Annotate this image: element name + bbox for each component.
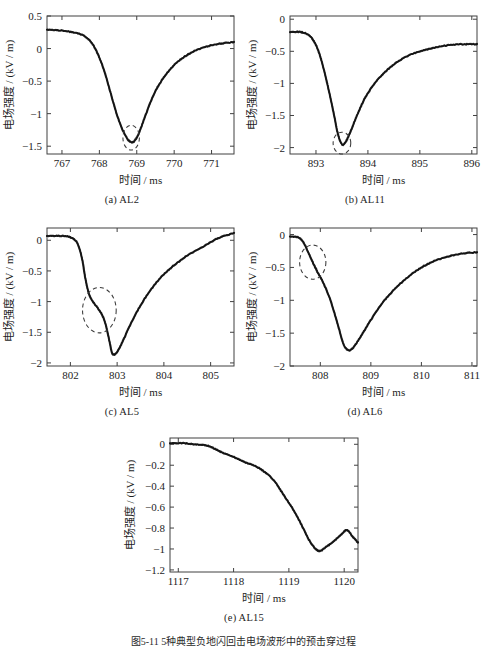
svg-text:767: 767	[54, 157, 71, 169]
svg-text:时间 / ms: 时间 / ms	[362, 174, 405, 186]
svg-text:−1.2: −1.2	[145, 564, 165, 576]
svg-text:0: 0	[280, 13, 286, 25]
svg-text:769: 769	[129, 157, 146, 169]
plot-al11: 8938948958960−0.5−1−1.5−2时间 / ms电场强度 / (…	[243, 6, 487, 196]
svg-text:−2: −2	[273, 360, 285, 372]
svg-text:0: 0	[160, 438, 166, 450]
panel-al5: 8028038048050−0.5−1−1.5−2时间 / ms电场强度 / (…	[0, 218, 244, 426]
svg-text:802: 802	[62, 369, 79, 381]
panel-al6: 8088098108110−0.5−1−1.5−2时间 / ms电场强度 / (…	[243, 218, 487, 426]
svg-text:时间 / ms: 时间 / ms	[362, 386, 405, 398]
svg-text:811: 811	[464, 369, 480, 381]
svg-text:810: 810	[413, 369, 430, 381]
plot-al15: 11171118111911200−0.2−0.4−0.6−0.8−1−1.2时…	[118, 428, 370, 614]
svg-text:−1.5: −1.5	[265, 327, 285, 339]
svg-text:电场强度 / (kV / m): 电场强度 / (kV / m)	[245, 252, 259, 343]
svg-text:804: 804	[156, 369, 173, 381]
panel-al2: 7677687697707710.50−0.5−1−1.5时间 / ms电场强度…	[0, 6, 244, 214]
chart-svg-al11: 8938948958960−0.5−1−1.5−2时间 / ms电场强度 / (…	[243, 6, 487, 196]
svg-text:1118: 1118	[223, 575, 245, 587]
panel-caption-al5: (c) AL5	[0, 406, 244, 417]
svg-text:805: 805	[202, 369, 219, 381]
svg-text:−1.5: −1.5	[22, 140, 42, 152]
panel-al15: 11171118111911200−0.2−0.4−0.6−0.8−1−1.2时…	[118, 428, 370, 628]
svg-text:−0.5: −0.5	[265, 261, 285, 273]
svg-text:−1.5: −1.5	[265, 109, 285, 121]
svg-text:−0.5: −0.5	[22, 75, 42, 87]
svg-text:896: 896	[464, 157, 481, 169]
svg-text:768: 768	[91, 157, 108, 169]
svg-text:电场强度 / (kV / m): 电场强度 / (kV / m)	[2, 252, 16, 343]
svg-text:−0.2: −0.2	[145, 459, 165, 471]
svg-text:电场强度 / (kV / m): 电场强度 / (kV / m)	[2, 40, 16, 131]
chart-svg-al15: 11171118111911200−0.2−0.4−0.6−0.8−1−1.2时…	[118, 428, 370, 614]
svg-text:894: 894	[360, 157, 377, 169]
svg-text:−2: −2	[30, 357, 42, 369]
svg-text:0: 0	[37, 43, 43, 55]
svg-text:−1.5: −1.5	[22, 326, 42, 338]
svg-text:893: 893	[308, 157, 325, 169]
svg-text:1120: 1120	[333, 575, 355, 587]
svg-text:1119: 1119	[278, 575, 300, 587]
panel-al11: 8938948958960−0.5−1−1.5−2时间 / ms电场强度 / (…	[243, 6, 487, 214]
svg-text:1117: 1117	[168, 575, 190, 587]
svg-text:770: 770	[166, 157, 183, 169]
chart-svg-al2: 7677687697707710.50−0.5−1−1.5时间 / ms电场强度…	[0, 6, 244, 196]
svg-text:0.5: 0.5	[28, 10, 42, 22]
svg-text:时间 / ms: 时间 / ms	[119, 174, 162, 186]
svg-text:771: 771	[203, 157, 220, 169]
svg-text:808: 808	[312, 369, 329, 381]
panel-caption-al2: (a) AL2	[0, 194, 244, 205]
figure-caption: 图5-11 5种典型负地闪回击电场波形中的预击穿过程	[0, 633, 487, 648]
svg-text:电场强度 / (kV / m): 电场强度 / (kV / m)	[123, 460, 137, 551]
svg-text:895: 895	[412, 157, 429, 169]
svg-text:−0.5: −0.5	[265, 45, 285, 57]
svg-text:时间 / ms: 时间 / ms	[242, 592, 285, 604]
svg-text:−0.8: −0.8	[145, 522, 165, 534]
svg-text:0: 0	[280, 229, 286, 241]
svg-text:809: 809	[363, 369, 380, 381]
svg-text:−1: −1	[273, 77, 285, 89]
chart-svg-al6: 8088098108110−0.5−1−1.5−2时间 / ms电场强度 / (…	[243, 218, 487, 408]
plot-al6: 8088098108110−0.5−1−1.5−2时间 / ms电场强度 / (…	[243, 218, 487, 408]
svg-text:0: 0	[37, 234, 43, 246]
svg-text:−2: −2	[273, 142, 285, 154]
svg-text:803: 803	[109, 369, 126, 381]
svg-text:时间 / ms: 时间 / ms	[119, 386, 162, 398]
plot-al5: 8028038048050−0.5−1−1.5−2时间 / ms电场强度 / (…	[0, 218, 244, 408]
svg-text:−1: −1	[30, 108, 42, 120]
svg-text:−1: −1	[153, 543, 165, 555]
panel-caption-al15: (e) AL15	[118, 612, 370, 623]
svg-text:−1: −1	[30, 296, 42, 308]
chart-svg-al5: 8028038048050−0.5−1−1.5−2时间 / ms电场强度 / (…	[0, 218, 244, 408]
panel-caption-al6: (d) AL6	[243, 406, 487, 417]
panel-caption-al11: (b) AL11	[243, 194, 487, 205]
svg-text:电场强度 / (kV / m): 电场强度 / (kV / m)	[245, 40, 259, 131]
svg-text:−1: −1	[273, 294, 285, 306]
svg-text:−0.4: −0.4	[145, 480, 165, 492]
svg-text:−0.5: −0.5	[22, 265, 42, 277]
svg-text:−0.6: −0.6	[145, 501, 165, 513]
plot-al2: 7677687697707710.50−0.5−1−1.5时间 / ms电场强度…	[0, 6, 244, 196]
